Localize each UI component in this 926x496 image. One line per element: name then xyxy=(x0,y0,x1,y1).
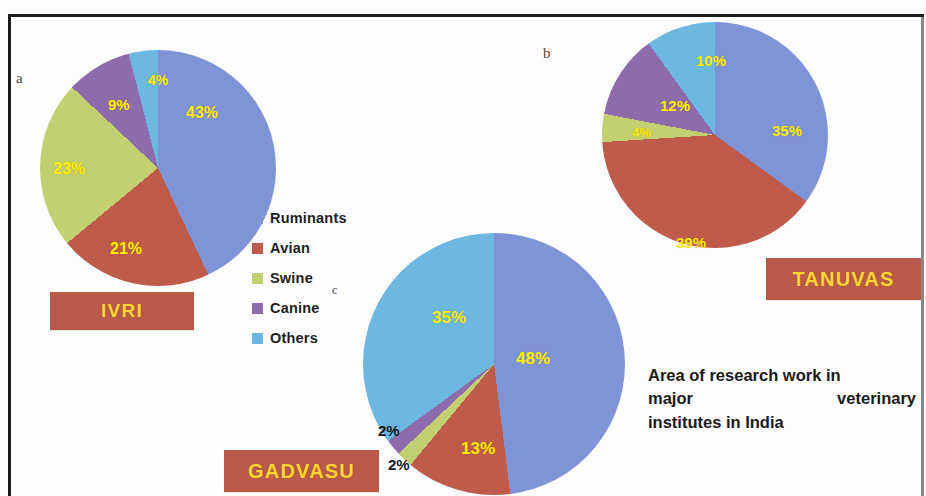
institute-label-gadvasu: GADVASU xyxy=(224,450,379,492)
pie-slice-label-tanuvas-swine: 4% xyxy=(632,125,651,140)
legend-label-canine: Canine xyxy=(270,300,320,316)
caption-line-1: Area of research work in xyxy=(648,364,916,387)
figure-border-right xyxy=(921,14,924,496)
caption-line-2: major veterinary xyxy=(648,387,916,410)
legend-swatch-others xyxy=(252,333,263,344)
pie-slice-label-gadvasu-swine: 2% xyxy=(388,456,410,473)
caption-line-2-word-1: major xyxy=(648,387,693,410)
figure-panel: a 43% 21% 23% 9% 4% IVRI Ruminants Avian… xyxy=(0,0,926,496)
legend-item-others: Others xyxy=(252,323,347,353)
institute-label-ivri: IVRI xyxy=(50,292,194,330)
legend-item-ruminants: Ruminants xyxy=(252,203,347,233)
caption-line-2-word-2: veterinary xyxy=(837,387,916,410)
legend-swatch-swine xyxy=(252,273,263,284)
pie-slice-label-tanuvas-ruminants: 35% xyxy=(772,122,802,139)
pie-slice-label-gadvasu-avian: 13% xyxy=(461,439,495,459)
pie-slice-label-gadvasu-ruminants: 48% xyxy=(516,349,550,369)
chart-legend: Ruminants Avian Swine Canine Others xyxy=(252,203,347,353)
institute-label-gadvasu-text: GADVASU xyxy=(248,460,355,483)
pie-slice-label-gadvasu-others: 35% xyxy=(432,308,466,328)
legend-label-ruminants: Ruminants xyxy=(270,210,347,226)
legend-swatch-avian xyxy=(252,243,263,254)
legend-label-avian: Avian xyxy=(270,240,310,256)
legend-label-others: Others xyxy=(270,330,318,346)
legend-label-swine: Swine xyxy=(270,270,313,286)
pie-slice-label-ivri-canine: 9% xyxy=(108,96,130,113)
institute-label-tanuvas: TANUVAS xyxy=(766,258,921,300)
legend-swatch-canine xyxy=(252,303,263,314)
caption-line-3: institutes in India xyxy=(648,411,916,434)
figure-caption: Area of research work in major veterinar… xyxy=(648,364,916,434)
panel-label-a: a xyxy=(16,70,23,87)
pie-slice-label-ivri-avian: 21% xyxy=(110,240,142,258)
figure-border-left xyxy=(8,14,11,496)
pie-slice-label-ivri-others: 4% xyxy=(148,72,168,88)
legend-item-avian: Avian xyxy=(252,233,347,263)
pie-slice-label-gadvasu-canine: 2% xyxy=(378,422,400,439)
figure-border-top xyxy=(8,14,924,17)
pie-slice-label-ivri-ruminants: 43% xyxy=(186,104,218,122)
institute-label-tanuvas-text: TANUVAS xyxy=(792,268,894,291)
legend-swatch-ruminants xyxy=(252,213,263,224)
panel-label-c: c xyxy=(332,283,337,298)
pie-slice-label-tanuvas-avian: 39% xyxy=(676,234,706,251)
pie-slice-label-tanuvas-canine: 12% xyxy=(660,97,690,114)
institute-label-ivri-text: IVRI xyxy=(101,300,143,322)
panel-label-b: b xyxy=(543,45,551,62)
pie-slice-label-ivri-swine: 23% xyxy=(53,160,85,178)
pie-slice-label-tanuvas-others: 10% xyxy=(696,52,726,69)
